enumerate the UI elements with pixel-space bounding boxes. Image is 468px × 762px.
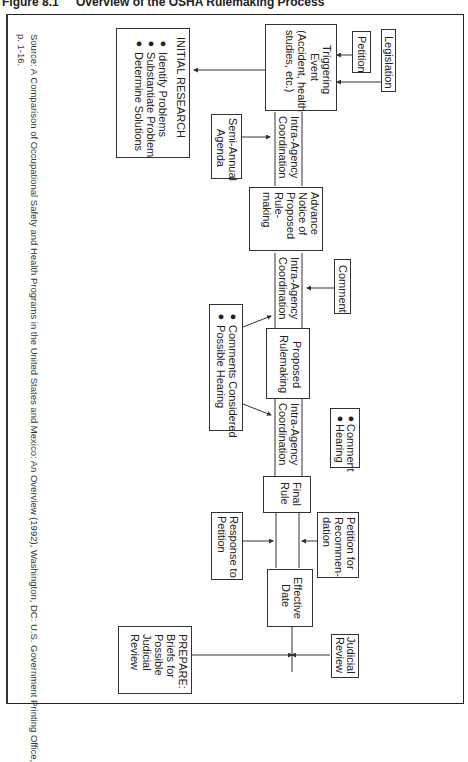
final-rule-line-2: Rule (279, 482, 291, 505)
legislation-label: Legislation (383, 36, 395, 89)
source-line-2: p. 1-16. (15, 34, 27, 66)
comment-hearing-box: ●Comment ●Hearing (330, 408, 360, 468)
final-rule-box: Final Rule (263, 476, 311, 513)
semi-annual-line-1: Semi-Annual (227, 118, 239, 181)
coordination-2: Intra-Agency Coordination (276, 253, 302, 328)
initial-research-heading: INITIAL RESEARCH (175, 37, 187, 138)
petition-box: Petition (352, 31, 371, 73)
triggering-event-box: Triggering Event (Accident, health studi… (265, 24, 337, 111)
triggering-event-line-1: Triggering (321, 45, 333, 94)
proposed-rulemaking-box: Proposed Rulemaking (266, 328, 310, 399)
triggering-event-line-2: Event (309, 53, 321, 81)
anpr-line-5: making (261, 192, 273, 227)
petition-reconsideration-box: Petition for Recommen- dation (317, 512, 359, 578)
initial-research-box: INITIAL RESEARCH ● Identify Problems ● S… (116, 28, 190, 158)
initial-research-bullet-2: ● Substantiate Problem (145, 37, 157, 157)
effective-date-line-2: Date (280, 584, 292, 607)
triggering-event-line-3: (Accident, health (296, 30, 308, 112)
response-line-1: Response to (228, 516, 240, 578)
petition-recon-line-2: Recommen- (333, 517, 345, 577)
comment-hearing-bullet-2: ●Hearing (334, 412, 346, 463)
petition-label: Petition (356, 36, 368, 73)
semi-annual-line-2: Agenda (215, 129, 227, 167)
anpr-line-3: Proposed (285, 192, 297, 239)
coordination-1-line-2: Coordination (277, 116, 289, 178)
coordination-2-line-1: Intra-Agency (289, 257, 301, 319)
coordination-1-line-1: Intra-Agency (289, 116, 301, 178)
triggering-event-line-4: studies, etc.) (284, 30, 296, 92)
prepare-line-4: Judicial (141, 634, 153, 671)
anpr-box: Advance Notice of Proposed Rule- making (249, 187, 323, 251)
coordination-3-line-1: Intra-Agency (289, 403, 301, 465)
petition-recon-line-3: dation (321, 517, 333, 547)
proposed-rulemaking-line-1: Proposed (291, 341, 303, 388)
semi-annual-agenda-box: Semi-Annual Agenda (211, 114, 242, 179)
prepare-line-2: Briefs for (165, 634, 177, 678)
initial-research-bullet-1: ● Identify Problems (157, 37, 169, 137)
prepare-line-3: Possible (153, 634, 165, 676)
coordination-3: Intra-Agency Coordination (276, 399, 302, 476)
judicial-review-line-1: Judicial (345, 637, 357, 674)
anpr-line-4: Rule- (273, 192, 285, 218)
source-line-1: Source: A Comparison of Occupational Saf… (28, 34, 40, 762)
comment-label: Comment (337, 265, 349, 313)
coordination-1: Intra-Agency Coordination (276, 112, 302, 186)
anpr-line-2: Notice of (297, 192, 309, 235)
proposed-rulemaking-line-2: Rulemaking (278, 335, 290, 393)
initial-research-bullet-3: ● Determine Solutions (133, 37, 145, 151)
prepare-line-5: Review (129, 634, 141, 670)
comment-hearing-bullet-1: ●Comment (345, 412, 357, 472)
prepare-line-1: PREPARE: (177, 634, 189, 689)
judicial-review-line-2: Review (334, 637, 346, 673)
comment-box: Comment (334, 259, 351, 314)
coordination-2-line-2: Coordination (277, 257, 289, 319)
effective-date-box: Effective Date (267, 569, 313, 627)
anpr-line-1: Advance (309, 192, 321, 235)
comments-considered-bullet-2: ● Possible Hearing (215, 310, 227, 408)
petition-recon-line-1: Petition for (345, 517, 357, 570)
response-to-petition-box: Response to Petition (211, 512, 243, 580)
final-rule-line-1: Final (291, 482, 303, 506)
response-line-2: Petition (216, 516, 228, 553)
comments-considered-bullet-1: ● Comments Considered (227, 310, 239, 438)
effective-date-line-1: Effective (292, 577, 304, 619)
comments-considered-box: ● Comments Considered ● Possible Hearing (209, 304, 243, 431)
prepare-box: PREPARE: Briefs for Possible Judicial Re… (118, 626, 192, 694)
legislation-box: Legislation (381, 29, 396, 92)
judicial-review-box: Judicial Review (331, 634, 359, 678)
coordination-3-line-2: Coordination (277, 403, 289, 465)
